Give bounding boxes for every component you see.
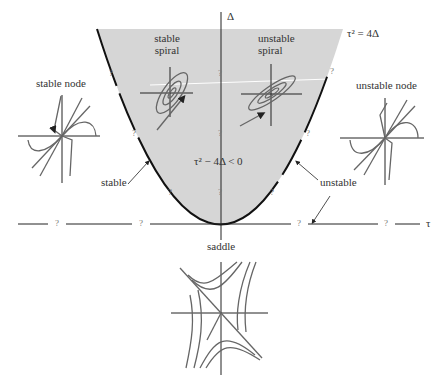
unknown-marker: ? [218,128,222,138]
stable-annotation: stable [101,176,127,188]
region-inequality-label: τ² − 4Δ < 0 [194,155,243,167]
unknown-marker: ? [218,68,222,78]
unknown-marker: ? [139,218,143,228]
stable-node-label: stable node [36,77,86,89]
unstable-pointer-2 [313,196,330,222]
unstable-annotation: unstable [320,176,357,188]
delta-axis-label: Δ [227,10,234,22]
unknown-marker: ? [384,218,388,228]
stable-pointer [128,162,148,184]
saddle-label: saddle [207,240,235,252]
unknown-marker: ? [109,68,113,78]
unstable-node-label: unstable node [356,79,417,91]
unknown-marker: ? [218,187,222,197]
unknown-marker: ? [270,187,274,197]
unknown-marker: ? [132,128,136,138]
stable-spiral-label: stablespiral [145,32,189,56]
unknown-marker: ? [330,66,334,76]
saddle-portrait [171,262,268,375]
unstable-pointer [297,162,318,180]
unknown-marker: ? [55,218,59,228]
trace-determinant-diagram: Δ τ τ² = 4Δ stablespiral unstablespiral … [0,0,443,392]
unknown-marker: ? [306,128,310,138]
boundary-label: τ² = 4Δ [347,27,379,39]
unknown-marker: ? [297,218,301,228]
unknown-marker: ? [168,187,172,197]
unstable-spiral-label: unstablespiral [258,32,295,56]
tau-axis-label: τ [426,217,430,229]
stable-node-portrait [18,95,100,183]
unstable-node-portrait [340,98,424,185]
